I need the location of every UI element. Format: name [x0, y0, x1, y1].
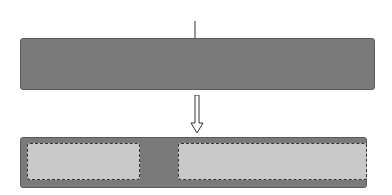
input-array [20, 38, 375, 90]
left-partition [27, 143, 140, 180]
right-partition [178, 143, 367, 180]
decompose-arrow-icon [190, 95, 204, 135]
